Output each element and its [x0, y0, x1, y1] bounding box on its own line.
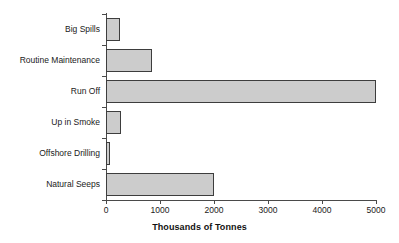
x-axis-tick-label: 1000 [151, 205, 170, 215]
x-axis-tick-mark [106, 200, 107, 204]
x-axis-tick-label: 3000 [259, 205, 278, 215]
y-axis-tick-label: Big Spills [4, 24, 100, 34]
y-axis-labels: Big Spills Routine Maintenance Run Off U… [0, 14, 100, 200]
x-axis-tick-mark [268, 200, 269, 204]
y-axis-tick-label: Run Off [4, 86, 100, 96]
bar [106, 18, 120, 41]
bar [106, 173, 214, 196]
x-axis-tick-label: 0 [104, 205, 109, 215]
bar [106, 80, 376, 103]
x-axis-title: Thousands of Tonnes [0, 222, 399, 232]
bar-row [106, 14, 376, 45]
y-axis-tick-label: Natural Seeps [4, 179, 100, 189]
bar-row [106, 138, 376, 169]
y-axis-tick-label: Routine Maintenance [4, 55, 100, 65]
x-axis-tick-mark [376, 200, 377, 204]
plot-area [106, 14, 376, 200]
bar [106, 49, 152, 72]
x-axis-tick-label: 4000 [313, 205, 332, 215]
x-axis-line [106, 200, 377, 201]
y-axis-tick-label: Up in Smoke [4, 117, 100, 127]
x-axis-tick-label: 5000 [367, 205, 386, 215]
x-axis-tick-mark [322, 200, 323, 204]
bar-row [106, 107, 376, 138]
x-axis-tick-mark [160, 200, 161, 204]
bar-chart: Big Spills Routine Maintenance Run Off U… [0, 0, 399, 243]
x-axis-tick-mark [214, 200, 215, 204]
y-axis-tick-label: Offshore Drilling [4, 148, 100, 158]
x-axis-tick-label: 2000 [205, 205, 224, 215]
bar-row [106, 169, 376, 200]
bar-row [106, 45, 376, 76]
bar-row [106, 76, 376, 107]
bar [106, 111, 121, 134]
bar [106, 142, 110, 165]
